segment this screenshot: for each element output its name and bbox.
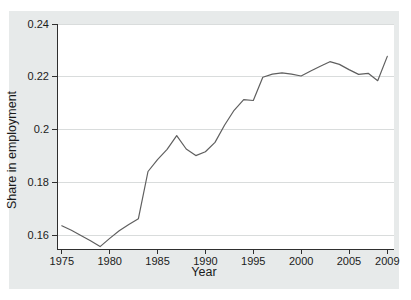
plot-area [57,24,394,249]
y-tick-label: 0.2 [34,123,49,135]
x-tick-label: 1985 [145,255,169,267]
x-axis-title: Year [191,265,216,279]
y-tick-label: 0.18 [28,176,49,188]
x-tick-label: 1975 [50,255,74,267]
x-tick-label: 2000 [289,255,313,267]
chart-canvas: 0.160.180.20.220.24 19751980198519901995… [0,0,411,300]
y-tick-label: 0.22 [28,70,49,82]
x-tick-label: 1980 [97,255,121,267]
y-tick-label: 0.16 [28,229,49,241]
x-tick-label: 2005 [337,255,361,267]
stata-line-chart-figure: 0.160.180.20.220.24 19751980198519901995… [0,0,411,300]
y-axis-title: Share in employment [5,90,19,209]
x-tick-label: 2009 [375,255,399,267]
y-tick-label: 0.24 [28,18,49,30]
x-tick-label: 1995 [241,255,265,267]
